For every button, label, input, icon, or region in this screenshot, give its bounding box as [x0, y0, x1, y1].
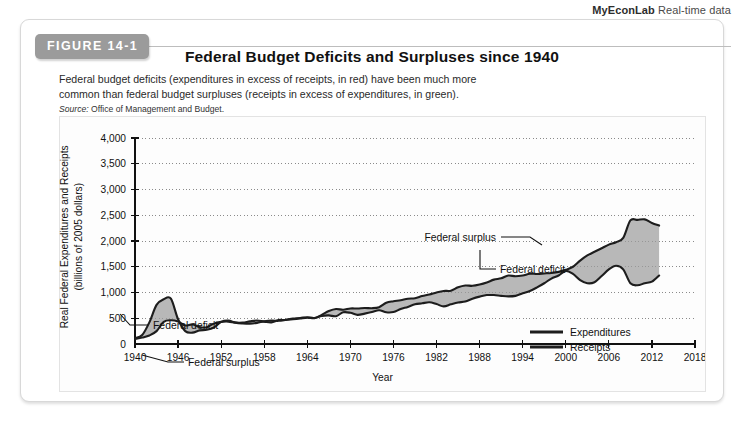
- annotation-federal-surplus-right: Federal surplus: [424, 232, 496, 243]
- y-axis-tick-label: 0: [120, 339, 126, 350]
- x-axis-tick-label: 1970: [339, 352, 362, 363]
- annotation-federal-surplus-left: Federal surplus: [188, 357, 260, 368]
- myeconlab-brand: MyEconLab: [592, 4, 655, 16]
- annotation-federal-deficit-right: Federal deficit: [500, 264, 565, 275]
- legend-label: Receipts: [570, 342, 610, 353]
- myeconlab-banner: MyEconLab Real-time data: [592, 4, 731, 16]
- y-axis-tick-label: 1,500: [101, 261, 127, 272]
- legend-label: Expenditures: [570, 327, 631, 338]
- figure-caption: Federal budget deficits (expenditures in…: [59, 72, 519, 103]
- x-axis-tick-label: 1982: [425, 352, 448, 363]
- figure-number-label: FIGURE 14-1: [47, 39, 138, 53]
- x-axis-tick-label: 1946: [167, 352, 190, 363]
- annotation-federal-deficit-right-leader: [480, 250, 496, 269]
- x-axis-tick-label: 2006: [598, 352, 621, 363]
- figure-number-tab: FIGURE 14-1: [35, 34, 149, 59]
- annotation-federal-surplus-right-leader: [501, 237, 542, 245]
- header-rule: [131, 46, 731, 47]
- x-axis-tick-label: 2018: [684, 352, 705, 363]
- x-axis-tick-label: 2012: [641, 352, 664, 363]
- chart-legend: ExpendituresReceipts: [530, 327, 631, 353]
- budget-area-chart: 05001,0001,5002,0002,5003,0003,5004,0001…: [60, 117, 705, 391]
- y-axis-tick-label: 3,500: [101, 158, 127, 169]
- y-axis-tick-label: 4,000: [101, 133, 127, 144]
- figure-screenshot: MyEconLab Real-time data FIGURE 14-1 Fed…: [0, 0, 743, 426]
- y-axis-tick-label: 2,000: [101, 236, 127, 247]
- x-axis-tick-label: 1994: [511, 352, 534, 363]
- chart-plot-frame: Real Federal Expenditures and Receipts (…: [59, 116, 706, 392]
- y-axis-tick-label: 1,000: [101, 287, 127, 298]
- x-axis-tick-label: 1988: [468, 352, 491, 363]
- x-axis-tick-label: 1976: [382, 352, 405, 363]
- source-text: Office of Management and Budget.: [91, 104, 224, 114]
- y-axis-tick-label: 3,000: [101, 184, 127, 195]
- myeconlab-suffix: Real-time data: [658, 4, 731, 16]
- y-axis-tick-label: 2,500: [101, 210, 127, 221]
- x-axis-tick-label: 2000: [554, 352, 577, 363]
- x-axis-tick-label: 1940: [124, 352, 147, 363]
- figure-card: FIGURE 14-1 Federal Budget Deficits and …: [20, 19, 724, 402]
- annotation-federal-deficit-left: Federal deficit: [153, 320, 218, 331]
- x-axis-tick-label: 1964: [296, 352, 319, 363]
